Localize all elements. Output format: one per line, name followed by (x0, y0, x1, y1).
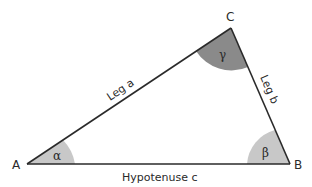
vertex-label-a: A (12, 158, 21, 172)
side-leg-a (27, 28, 231, 164)
angle-label-gamma: γ (219, 48, 226, 62)
right-triangle-diagram: A B C α β γ Leg a Leg b Hypotenuse c (0, 0, 312, 187)
angle-label-alpha: α (53, 149, 61, 163)
vertex-label-c: C (226, 10, 234, 24)
angle-label-beta: β (262, 146, 269, 160)
angle-alpha-arc (27, 140, 75, 164)
side-label-leg-a: Leg a (104, 76, 136, 103)
side-label-leg-b: Leg b (257, 73, 281, 106)
side-label-hypotenuse-c: Hypotenuse c (122, 171, 198, 184)
vertex-label-b: B (294, 158, 302, 172)
